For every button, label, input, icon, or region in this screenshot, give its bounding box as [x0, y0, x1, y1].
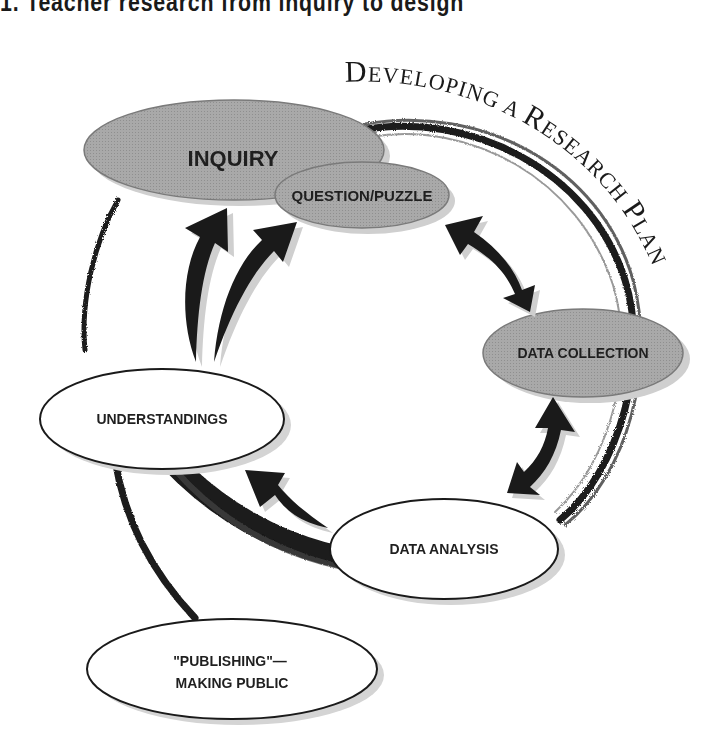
node-question-puzzle: QUESTION/PUZZLE [275, 162, 455, 234]
node-question-puzzle-label: QUESTION/PUZZLE [292, 187, 433, 204]
node-publishing-line1: "PUBLISHING"— [173, 653, 287, 669]
arc-caption: DEVELOPING A RESEARCH PLAN [344, 54, 671, 269]
double-arrow-data-collection-analysis-icon [507, 397, 580, 500]
research-cycle-diagram: DEVELOPING A RESEARCH PLAN INQUIRY QUEST… [0, 0, 725, 753]
node-understandings: UNDERSTANDINGS [40, 369, 291, 475]
node-inquiry-label: INQUIRY [188, 146, 279, 171]
node-publishing-line2: MAKING PUBLIC [176, 675, 289, 691]
node-publishing: "PUBLISHING"— MAKING PUBLIC [87, 619, 384, 725]
double-arrow-question-data-collection-icon [445, 216, 540, 317]
node-data-analysis-label: DATA ANALYSIS [389, 541, 498, 557]
node-understandings-label: UNDERSTANDINGS [96, 411, 227, 427]
node-data-collection-label: DATA COLLECTION [517, 345, 648, 361]
node-data-analysis: DATA ANALYSIS [330, 499, 565, 605]
node-data-collection: DATA COLLECTION [483, 309, 690, 403]
